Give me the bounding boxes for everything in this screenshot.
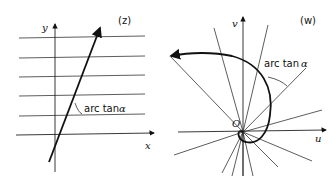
angle-label: arc tan (84, 103, 119, 114)
angle-arc (268, 77, 287, 86)
v-axis-label: v (232, 18, 238, 29)
alpha-symbol: α (119, 103, 126, 114)
x-axis (16, 133, 154, 135)
radial-lines (171, 25, 322, 176)
log-spiral (171, 53, 271, 142)
w-plane-panel: v u O (w) arc tan α (171, 15, 326, 176)
w-plane-label: (w) (300, 15, 316, 26)
conformal-map-diagram: y x (z) arc tan α v u O (w) arc tan (0, 0, 336, 182)
y-axis-label: y (41, 22, 48, 33)
origin-label: O (232, 118, 240, 129)
alpha-symbol: α (301, 58, 308, 69)
z-plane-label: (z) (118, 15, 131, 26)
angle-arc (75, 103, 82, 114)
x-axis-label: x (145, 140, 151, 151)
u-axis (178, 130, 326, 132)
u-axis-label: u (315, 133, 321, 144)
z-plane-panel: y x (z) arc tan α (16, 15, 154, 172)
angle-label: arc tan (264, 58, 299, 69)
